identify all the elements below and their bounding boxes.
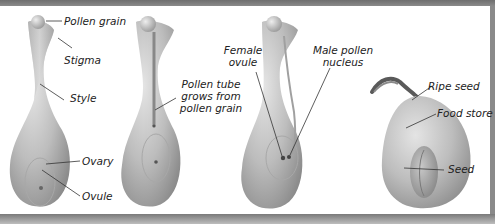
label-female-ovule-2: ovule (218, 56, 268, 68)
label-pollen-grain: Pollen grain (64, 15, 126, 27)
label-pollen-tube-3: pollen grain (176, 102, 246, 114)
label-female-ovule-1: Female (218, 44, 268, 56)
flower-stage-1 (10, 15, 80, 207)
label-ovary: Ovary (82, 155, 113, 167)
male-pollen-nucleus (287, 155, 291, 159)
female-ovule (281, 156, 285, 160)
label-style: Style (70, 92, 96, 104)
pollen-grain-2 (140, 16, 156, 32)
fertilization-diagram (0, 0, 495, 224)
flower-stage-2 (121, 16, 180, 207)
label-food-store: Food store (437, 107, 493, 119)
label-pollen-tube-2: grows from (176, 90, 246, 102)
pollen-grain-1 (31, 15, 45, 29)
pollen-grain-3 (266, 16, 282, 32)
label-seed: Seed (448, 163, 474, 175)
ovule-1 (39, 186, 43, 190)
seed (410, 146, 438, 198)
label-male-nucleus-2: nucleus (310, 56, 376, 68)
label-pollen-tube-1: Pollen tube (176, 78, 246, 90)
ripe-seed-stage (372, 79, 471, 208)
label-ripe-seed: Ripe seed (428, 80, 480, 92)
label-ovule: Ovule (82, 190, 113, 202)
label-stigma: Stigma (64, 54, 101, 66)
label-male-nucleus-1: Male pollen (310, 44, 376, 56)
